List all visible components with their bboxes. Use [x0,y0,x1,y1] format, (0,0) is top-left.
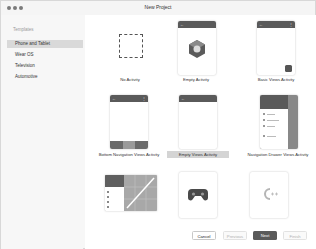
next-button[interactable]: Next [253,231,277,240]
template-thumbnail [250,172,288,218]
overflow-menu-icon: ⋮ [289,22,293,27]
cpp-logo-icon [261,187,279,201]
template-label: Empty Views Activity [167,151,229,158]
no-activity-placeholder-icon [119,34,143,58]
app-bar: ←⋮ [257,21,295,28]
sidebar-item-automotive[interactable]: Automotive [7,73,83,81]
navigation-drawer [260,95,288,149]
sidebar-header: Templates [13,27,34,32]
template-thumbnail: ←⋮ [257,21,295,75]
template-card-basic-views-activity[interactable]: ←⋮ Basic Views Activity [245,21,305,87]
template-label: Empty Activity [171,77,221,82]
cancel-button[interactable]: Cancel [192,231,216,240]
template-card-bottom-navigation-views-activity[interactable]: ←⋮ Bottom Navigation Views Activity [99,95,159,161]
compose-logo-icon [188,39,206,59]
back-arrow-icon: ← [259,22,263,27]
app-bar: ←⋮ [110,95,148,102]
overflow-menu-icon: ⋮ [142,96,146,101]
template-thumbnail [260,95,298,149]
template-card-no-activity[interactable]: No Activity [105,21,155,87]
bottom-navigation-bar [110,141,148,149]
previous-button[interactable]: Previous [223,231,247,240]
template-label: No Activity [105,77,155,82]
fab-icon [285,65,292,72]
app-bar: ← [178,21,216,28]
template-thumbnail: ← [178,21,216,75]
sidebar-item-phone-and-tablet[interactable]: Phone and Tablet [7,40,83,48]
template-card-navigation-drawer-views-activity[interactable]: Navigation Drawer Views Activity [245,95,311,161]
gamepad-icon [188,188,208,201]
template-label: Navigation Drawer Views Activity [241,152,315,157]
grid-diagonal-icon [124,175,157,211]
template-card-game-activity[interactable] [179,172,217,220]
new-project-window: New Project Templates Phone and Tablet W… [0,0,316,249]
template-thumbnail [179,172,217,218]
template-card-native-cpp[interactable] [250,172,288,220]
sidebar-item-television[interactable]: Television [7,62,83,70]
template-card-responsive-views-activity[interactable] [105,175,159,221]
template-card-empty-views-activity[interactable]: ← Empty Views Activity [167,95,229,161]
template-label: Bottom Navigation Views Activity [87,152,171,157]
templates-sidebar: Templates Phone and Tablet Wear OS Telev… [1,15,83,249]
window-title: New Project [1,4,315,10]
template-thumbnail: ←⋮ [110,95,148,149]
finish-button[interactable]: Finish [283,231,307,240]
app-bar: ← [179,95,217,102]
sidebar-item-wear-os[interactable]: Wear OS [7,51,83,59]
back-arrow-icon: ← [180,22,184,27]
title-bar: New Project [1,1,315,15]
template-thumbnail: ← [179,95,217,149]
back-arrow-icon: ← [181,96,185,101]
template-thumbnail [105,175,157,211]
template-label: Basic Views Activity [245,77,307,82]
back-arrow-icon: ← [112,96,116,101]
template-gallery: No Activity ← Empty Activity ←⋮ Basic Vi… [85,15,316,249]
template-card-empty-activity[interactable]: ← Empty Activity [175,21,221,87]
